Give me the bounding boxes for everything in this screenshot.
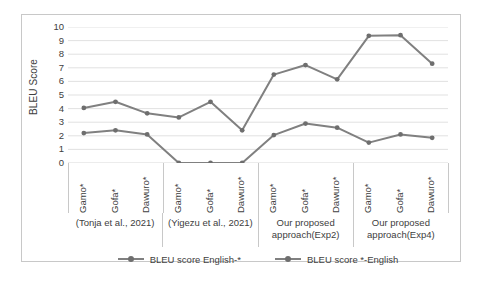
y-tick-label: 6 bbox=[44, 77, 64, 87]
x-tick-label: Gamo* bbox=[172, 165, 184, 213]
legend-label: BLEU score *-English bbox=[307, 254, 398, 265]
chart-lines bbox=[68, 27, 448, 163]
y-tick-label: 7 bbox=[44, 63, 64, 73]
group-label-2: (Yigezu et al., 2021) bbox=[162, 213, 257, 247]
chart-container: BLEU Score 109876543210 Gamo*Gofa*Dawuro… bbox=[21, 14, 461, 262]
data-point bbox=[81, 131, 86, 136]
group-separator-line bbox=[163, 163, 164, 213]
group-separator-line bbox=[353, 163, 354, 213]
x-tick-label: Dawuro* bbox=[330, 165, 342, 213]
y-tick-label: 3 bbox=[44, 117, 64, 127]
group-label-3: Our proposed approach(Exp2) bbox=[258, 213, 353, 247]
x-tick-label: Gofa* bbox=[299, 165, 311, 213]
x-tick-label: Dawuro* bbox=[140, 165, 152, 213]
x-tick-label: Gofa* bbox=[204, 165, 216, 213]
x-tick-label: Gofa* bbox=[109, 165, 121, 213]
data-point bbox=[303, 63, 308, 68]
legend-item-1[interactable]: BLEU score English-* bbox=[118, 254, 241, 265]
plot-area bbox=[68, 27, 448, 163]
x-tick-label: Dawuro* bbox=[235, 165, 247, 213]
data-point bbox=[335, 125, 340, 130]
y-tick-label: 4 bbox=[44, 104, 64, 114]
x-axis-group-labels: (Tonja et al., 2021)(Yigezu et al., 2021… bbox=[68, 213, 448, 247]
data-point bbox=[145, 111, 150, 116]
y-tick-label: 10 bbox=[44, 22, 64, 32]
data-point bbox=[145, 132, 150, 137]
group-separator-line bbox=[258, 163, 259, 213]
legend-marker-icon bbox=[275, 255, 301, 263]
data-point bbox=[271, 133, 276, 138]
data-point bbox=[176, 115, 181, 120]
data-point bbox=[430, 61, 435, 66]
y-axis-tick-labels: 109876543210 bbox=[44, 27, 64, 163]
chart-legend: BLEU score English-*BLEU score *-English bbox=[68, 251, 448, 267]
y-tick-label: 8 bbox=[44, 49, 64, 59]
category-band-right-edge bbox=[448, 163, 449, 213]
y-tick-label: 2 bbox=[44, 131, 64, 141]
group-label-4: Our proposed approach(Exp4) bbox=[353, 213, 448, 247]
data-point bbox=[208, 161, 213, 163]
data-point bbox=[430, 135, 435, 140]
group-label-1: (Tonja et al., 2021) bbox=[68, 213, 162, 247]
x-tick-label: Gofa* bbox=[394, 165, 406, 213]
data-point bbox=[398, 33, 403, 38]
legend-label: BLEU score English-* bbox=[150, 254, 241, 265]
data-point bbox=[366, 140, 371, 145]
y-tick-label: 5 bbox=[44, 90, 64, 100]
data-point bbox=[240, 128, 245, 133]
legend-marker-icon bbox=[118, 255, 144, 263]
data-point bbox=[303, 121, 308, 126]
x-tick-label: Gamo* bbox=[77, 165, 89, 213]
y-tick-label: 9 bbox=[44, 36, 64, 46]
y-tick-label: 0 bbox=[44, 158, 64, 168]
data-point bbox=[113, 99, 118, 104]
series-line-2 bbox=[84, 35, 432, 130]
data-point bbox=[398, 132, 403, 137]
x-tick-label: Gamo* bbox=[267, 165, 279, 213]
legend-item-2[interactable]: BLEU score *-English bbox=[275, 254, 398, 265]
data-point bbox=[208, 99, 213, 104]
data-point bbox=[113, 128, 118, 133]
y-axis-title: BLEU Score bbox=[28, 33, 42, 141]
data-point bbox=[271, 72, 276, 77]
x-tick-label: Dawuro* bbox=[425, 165, 437, 213]
data-point bbox=[366, 33, 371, 38]
x-tick-label: Gamo* bbox=[362, 165, 374, 213]
data-point bbox=[335, 77, 340, 82]
y-tick-label: 1 bbox=[44, 145, 64, 155]
data-point bbox=[81, 106, 86, 111]
series-line-1 bbox=[84, 124, 432, 163]
